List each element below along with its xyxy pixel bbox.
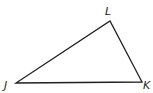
triangle-jkl	[16, 21, 142, 83]
vertex-label-k: K	[143, 79, 151, 92]
vertex-label-l: L	[105, 5, 111, 18]
triangle-diagram: L J K	[0, 0, 153, 93]
vertex-label-j: J	[2, 79, 7, 92]
